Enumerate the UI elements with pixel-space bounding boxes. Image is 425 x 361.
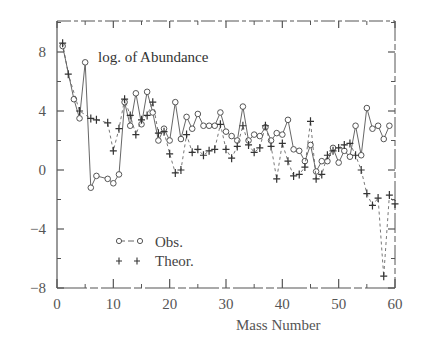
observed-point (240, 104, 246, 110)
legend-item-theoretical: Theor. (116, 253, 194, 269)
observed-point (313, 169, 319, 175)
x-tick-label: 30 (219, 296, 234, 312)
observed-point (173, 99, 179, 105)
theoretical-point (110, 147, 117, 155)
observed-point (280, 132, 286, 138)
y-tick-label: 8 (39, 44, 47, 60)
observed-point (381, 136, 387, 142)
theoretical-point (352, 151, 359, 159)
x-tick-label: 0 (53, 296, 61, 312)
y-tick-label: 4 (39, 103, 47, 119)
observed-point (156, 138, 162, 144)
theoretical-point (313, 175, 320, 183)
theoretical-point (324, 151, 331, 159)
abundance-chart: 840−4−8 0102030405060 log. of Abundance … (0, 0, 425, 361)
theoretical-point (290, 172, 297, 180)
x-tick-label: 50 (331, 296, 346, 312)
observed-point (364, 105, 370, 111)
theoretical-point (76, 107, 83, 115)
observed-point (375, 123, 381, 129)
theoretical-point (346, 139, 353, 147)
theoretical-point (380, 272, 387, 280)
theoretical-point (279, 139, 286, 147)
observed-point (71, 96, 77, 102)
x-tick-label: 20 (162, 296, 177, 312)
observed-point (251, 132, 257, 138)
legend-plus-icon (116, 258, 140, 265)
theoretical-point (386, 191, 393, 199)
observed-point (223, 129, 229, 135)
theoretical-point (228, 154, 235, 162)
observed-point (77, 116, 83, 122)
theoretical-line (63, 43, 395, 276)
observed-point (274, 130, 280, 136)
y-tick-label: −8 (30, 280, 46, 296)
legend-circle (137, 238, 142, 243)
theoretical-point (273, 175, 280, 183)
observed-line (63, 46, 390, 188)
x-tick-label: 40 (275, 296, 290, 312)
observed-point (150, 110, 156, 116)
observed-point (133, 91, 139, 97)
theoretical-point (211, 145, 218, 153)
observed-point (370, 126, 376, 132)
observed-point (285, 117, 291, 123)
observed-point (336, 160, 342, 166)
y-tick-label: −4 (30, 221, 46, 237)
observed-point (319, 158, 325, 164)
theoretical-point (166, 150, 173, 158)
x-axis-title: Mass Number (236, 317, 321, 333)
series-observed (60, 43, 392, 190)
observed-point (296, 148, 302, 154)
theoretical-point (234, 142, 241, 150)
theoretical-point (115, 125, 122, 133)
observed-point (195, 111, 201, 117)
legend-circle (116, 238, 121, 243)
observed-point (229, 133, 235, 139)
legend-circle-line-icon (116, 238, 142, 243)
observed-point (88, 185, 94, 191)
chart-title: log. of Abundance (98, 49, 209, 65)
theoretical-point (284, 157, 291, 165)
observed-point (116, 172, 122, 178)
observed-point (94, 173, 100, 179)
legend-item-observed: Obs. (116, 234, 183, 250)
theoretical-point (256, 144, 263, 152)
theoretical-point (268, 142, 275, 150)
legend: Obs. Theor. (116, 234, 194, 269)
legend-plus (116, 258, 122, 265)
theoretical-point (183, 131, 190, 139)
observed-point (184, 114, 190, 120)
observed-point (127, 123, 133, 129)
observed-point (257, 133, 263, 139)
observed-point (105, 176, 111, 182)
theoretical-point (93, 116, 100, 124)
observed-point (212, 123, 218, 129)
theoretical-point (307, 117, 314, 125)
theoretical-point (392, 200, 399, 208)
theoretical-point (369, 201, 376, 209)
observed-point (358, 152, 364, 158)
theoretical-point (104, 119, 111, 127)
observed-point (206, 123, 212, 129)
legend-label-theoretical: Theor. (155, 253, 194, 269)
observed-point (347, 154, 353, 160)
series-theoretical (59, 39, 398, 280)
observed-point (178, 136, 184, 142)
observed-point (387, 123, 393, 129)
observed-point (111, 180, 117, 186)
observed-point (144, 89, 150, 95)
theoretical-point (363, 190, 370, 198)
x-tick-label: 60 (388, 296, 403, 312)
x-tick-label: 10 (106, 296, 121, 312)
theoretical-point (87, 114, 94, 122)
y-tick-label: 0 (39, 162, 47, 178)
observed-point (82, 60, 88, 66)
observed-point (167, 138, 173, 144)
theoretical-point (132, 131, 139, 139)
theoretical-point (206, 147, 213, 155)
legend-plus (134, 258, 140, 265)
theoretical-point (223, 145, 230, 153)
observed-point (291, 147, 297, 153)
observed-point (353, 123, 359, 129)
